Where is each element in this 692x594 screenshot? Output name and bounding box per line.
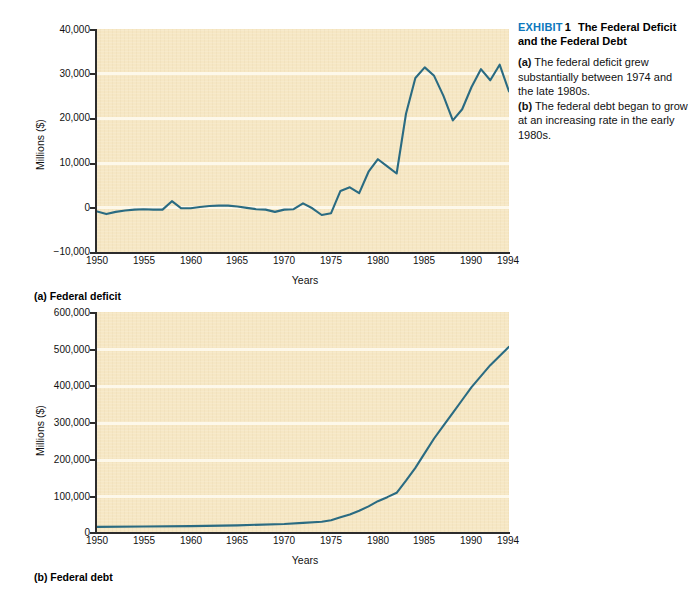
chart-b-xtick-label-1950: 1950 — [75, 536, 119, 546]
chart-b-ytick-label-600000: 600,000 — [22, 308, 90, 318]
chart-b-xtick-label-1960: 1960 — [169, 536, 213, 546]
chart-b-xtick-label-1980: 1980 — [356, 536, 400, 546]
chart-a-xtick-label-1970: 1970 — [262, 256, 306, 266]
chart-a-tick-40000 — [90, 29, 95, 31]
exhibit-note-b-text: The federal debt began to grow at an inc… — [518, 100, 688, 141]
chart-a-xtick-label-1955: 1955 — [122, 256, 166, 266]
chart-b-tick-500000 — [90, 349, 95, 351]
exhibit-number: 1 — [563, 21, 571, 33]
chart-b-caption: (b) Federal debt — [34, 571, 113, 583]
chart-a-tick-10000 — [90, 163, 95, 165]
chart-a-ytick-label-0: 0 — [32, 203, 90, 213]
chart-b-ytick-label-500000: 500,000 — [22, 345, 90, 355]
exhibit-note-b-marker: (b) — [518, 100, 532, 112]
chart-a-x-axis-title: Years — [270, 274, 340, 286]
chart-b-y-axis-title: Millions ($) — [34, 405, 46, 456]
chart-b-xtick-label-1955: 1955 — [122, 536, 166, 546]
chart-a-xtick-label-1960: 1960 — [169, 256, 213, 266]
chart-a-ytick-label-20000: 20,000 — [32, 113, 90, 123]
chart-b-series-line — [97, 312, 509, 532]
chart-b-x-axis-title: Years — [270, 554, 340, 566]
exhibit-label: EXHIBIT — [518, 21, 563, 33]
chart-a-ytick-label-30000: 30,000 — [32, 69, 90, 79]
chart-b-xtick-label-1970: 1970 — [262, 536, 306, 546]
chart-b-tick-100000 — [90, 496, 95, 498]
chart-a-tick-20000 — [90, 118, 95, 120]
chart-a-tick-0 — [90, 207, 95, 209]
exhibit-note-a: (a) The federal deficit grew substantial… — [518, 55, 688, 99]
chart-a-xtick-label-1950: 1950 — [75, 256, 119, 266]
chart-b-tick-600000 — [90, 312, 95, 314]
exhibit-note-a-text: The federal deficit grew substantially b… — [518, 56, 672, 97]
chart-a-xtick-label-1985: 1985 — [402, 256, 446, 266]
chart-b-plot-area — [97, 312, 509, 532]
chart-a-tick-30000 — [90, 73, 95, 75]
exhibit-note-a-marker: (a) — [518, 56, 531, 68]
chart-a-ytick-label-40000: 40,000 — [32, 25, 90, 35]
chart-panel-federal-debt: Millions ($) 600,000 500,000 400,000 300… — [0, 300, 518, 594]
chart-a-xtick-label-1994: 1994 — [486, 256, 530, 266]
chart-b-ytick-label-400000: 400,000 — [22, 381, 90, 391]
chart-b-ytick-label-200000: 200,000 — [22, 455, 90, 465]
chart-a-ytick-label-10000: 10,000 — [32, 158, 90, 168]
exhibit-heading: EXHIBIT1The Federal Deficit and the Fede… — [518, 20, 688, 48]
chart-b-tick-300000 — [90, 422, 95, 424]
chart-a-x-axis-line — [95, 252, 510, 254]
chart-b-tick-200000 — [90, 459, 95, 461]
chart-b-xtick-label-1994: 1994 — [486, 536, 530, 546]
chart-b-xtick-label-1985: 1985 — [402, 536, 446, 546]
chart-b-ytick-label-100000: 100,000 — [22, 492, 90, 502]
chart-b-ytick-label-300000: 300,000 — [22, 418, 90, 428]
chart-a-xtick-label-1980: 1980 — [356, 256, 400, 266]
chart-b-xtick-label-1975: 1975 — [309, 536, 353, 546]
exhibit-note-b: (b) The federal debt began to grow at an… — [518, 99, 688, 143]
chart-b-xtick-label-1965: 1965 — [215, 536, 259, 546]
chart-b-tick-0 — [90, 532, 95, 534]
chart-a-xtick-label-1965: 1965 — [215, 256, 259, 266]
chart-a-plot-area — [97, 29, 509, 252]
exhibit-sidenote: EXHIBIT1The Federal Deficit and the Fede… — [518, 20, 688, 142]
chart-b-tick-400000 — [90, 385, 95, 387]
chart-a-tick-minus10000 — [90, 252, 95, 254]
chart-b-x-axis-line — [95, 532, 510, 534]
chart-panel-federal-deficit: Millions ($) 40,000 30,000 20,000 10,000… — [0, 0, 518, 300]
chart-a-xtick-label-1975: 1975 — [309, 256, 353, 266]
chart-a-series-line — [97, 29, 509, 252]
